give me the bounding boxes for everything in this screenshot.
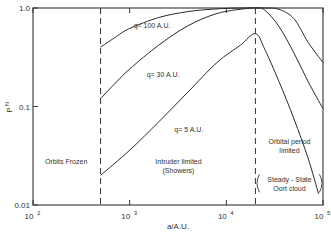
y-tick-label: 1.0	[19, 4, 31, 13]
y-axis-label-subscript: N	[4, 102, 10, 106]
region-annotation: Orbits Frozen	[45, 158, 88, 165]
x-tick-label: 10	[25, 212, 34, 221]
x-tick-exponent: 2	[37, 210, 41, 216]
left-paren	[257, 174, 260, 192]
x-tick-label: 10	[315, 212, 324, 221]
region-annotation: Steady - State	[267, 176, 311, 184]
x-tick-exponent: 5	[327, 210, 331, 216]
series-label: q= 5 A.U.	[174, 126, 203, 134]
pn-vs-semimajor-axis-chart: 1.00.10.01102103104105a/A.U.PNq= 100 A.U…	[0, 0, 331, 234]
x-axis-label: a/A.U.	[167, 222, 189, 231]
region-annotation: Orbital period	[268, 138, 310, 146]
y-tick-label: 0.1	[19, 103, 31, 112]
series-curve-2	[101, 34, 319, 194]
region-annotation: (Showers)	[163, 167, 195, 175]
region-annotation: Intruder limited	[155, 158, 201, 165]
right-paren	[319, 174, 322, 192]
y-axis-label: P	[5, 107, 14, 112]
series-curve-0	[101, 8, 323, 63]
x-tick-exponent: 3	[134, 210, 138, 216]
region-annotation: limited	[279, 147, 299, 154]
y-tick-label: 0.01	[14, 201, 30, 210]
series-label: q= 100 A.U.	[134, 22, 171, 30]
x-tick-exponent: 4	[230, 210, 234, 216]
x-tick-label: 10	[218, 212, 227, 221]
series-label: q= 30 A.U.	[147, 71, 180, 79]
plot-area: 1.00.10.01102103104105a/A.U.PNq= 100 A.U…	[4, 4, 331, 231]
region-annotation: Oort cloud	[273, 185, 305, 192]
x-tick-label: 10	[121, 212, 130, 221]
